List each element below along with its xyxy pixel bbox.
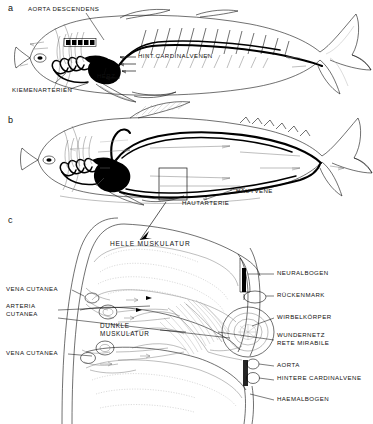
label-helle-muskulatur: HELLE MUSKULATUR [110, 240, 190, 248]
label-wundernetz-rete-mirabile: WUNDERNETZ RETE MIRABILE [277, 331, 329, 346]
label-vena-cutanea-upper: VENA CUTANEA [6, 285, 58, 293]
label-aorta: AORTA [277, 361, 300, 369]
label-neuralbogen: NEURALBOGEN [277, 269, 329, 277]
label-dunkle-muskulatur: DUNKLE MUSKULATUR [100, 322, 150, 337]
label-rueckenmark: RÜCKENMARK [277, 291, 325, 299]
figure-canvas: a b c [0, 0, 373, 424]
label-haemalbogen: HAEMALBOGEN [277, 395, 329, 403]
label-vena-cutanea-lower: VENA CUTANEA [6, 349, 58, 357]
label-arteria-cutanea: ARTERIA CUTANEA [6, 302, 38, 317]
panel-c-artwork [0, 0, 373, 424]
label-hintere-cardinalvene: HINTERE CARDINALVENE [277, 374, 361, 382]
label-wirbelkoerper: WIRBELKÖRPER [277, 313, 332, 321]
